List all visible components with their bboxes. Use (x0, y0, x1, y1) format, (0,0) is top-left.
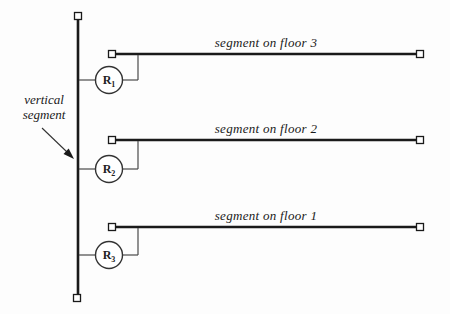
repeater-3-subscript: 3 (111, 255, 115, 264)
callout-arrow-line (42, 128, 67, 152)
floor-2-right-terminator-square (417, 137, 424, 144)
floor-1-left-terminator-square (109, 224, 116, 231)
floor-3-left-terminator-square (109, 51, 116, 58)
repeater-1-subscript: 1 (111, 80, 115, 89)
repeater-2-subscript: 2 (111, 169, 115, 178)
vertical-segment-top-terminator-square (75, 13, 82, 20)
floor-1-right-terminator-square (417, 224, 424, 231)
repeater-1-label: R1 (94, 71, 124, 89)
vertical-segment-label-line1: vertical (10, 92, 78, 107)
vertical-segment-label-line2: segment (10, 107, 78, 122)
repeater-3-label: R3 (94, 246, 124, 264)
floor-2-segment-label: segment on floor 2 (112, 121, 420, 136)
repeater-2-label: R2 (94, 160, 124, 178)
diagram-canvas: segment on floor 3 segment on floor 2 se… (0, 0, 450, 314)
floor-3-right-terminator-square (417, 51, 424, 58)
vertical-segment-bottom-terminator-square (74, 295, 81, 302)
vertical-segment-label: vertical segment (10, 92, 78, 122)
floor-2-left-terminator-square (109, 137, 116, 144)
floor-1-segment-label: segment on floor 1 (112, 208, 420, 223)
floor-3-segment-label: segment on floor 3 (112, 35, 420, 50)
